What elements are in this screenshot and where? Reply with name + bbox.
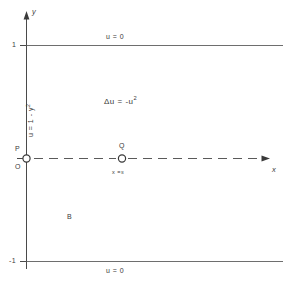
top-boundary-condition: u = 0 xyxy=(106,33,124,40)
left-boundary-condition: u = 1 - y2 xyxy=(27,104,34,137)
point-q-sublabel: x =s xyxy=(112,170,124,176)
pde-equation-exponent: 2 xyxy=(134,95,138,101)
bottom-boundary-condition: u = 0 xyxy=(106,267,124,274)
region-label: B xyxy=(67,213,72,220)
point-q-marker xyxy=(118,155,125,162)
point-p-marker xyxy=(23,155,30,162)
math-figure: y x 1 -1 O P Q x =s u = 0 u = 0 u = 1 - … xyxy=(0,0,292,283)
left-boundary-condition-text: u = 1 - y xyxy=(27,107,34,137)
y-tick-positive-one: 1 xyxy=(12,41,16,48)
left-boundary-condition-exponent: 2 xyxy=(25,104,31,107)
pde-equation: Δu = -u2 xyxy=(104,98,137,106)
point-q-label: Q xyxy=(119,142,125,149)
y-tick-negative-one: -1 xyxy=(9,257,16,264)
y-axis xyxy=(24,11,30,269)
point-q-sublabel-prefix: x = xyxy=(112,169,121,175)
figure-graphics xyxy=(0,0,292,283)
point-q-sublabel-value: s xyxy=(121,169,124,175)
x-axis-label: x xyxy=(272,166,276,174)
y-axis-label: y xyxy=(32,8,36,16)
dashed-ray xyxy=(17,156,270,162)
origin-label: O xyxy=(15,163,21,170)
point-p-label: P xyxy=(15,145,20,152)
pde-equation-text: Δu = -u xyxy=(104,97,134,106)
